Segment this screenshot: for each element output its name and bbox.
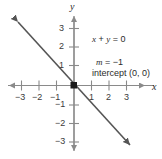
y-tick-label-neg1: −1 [55,99,65,109]
x-tick-label-pos2: 2 [106,92,111,102]
y-tick-label-pos2: 2 [59,41,64,51]
intercept-annotation: intercept (0, 0) [92,68,150,79]
x-axis [8,81,154,91]
graph-canvas [0,0,162,159]
x-tick-label-neg2: −2 [32,92,42,102]
x-tick-label-pos1: 1 [89,92,94,102]
slope-value: = −1 [103,57,124,67]
x-tick-label-pos3: 3 [124,92,129,102]
x-tick-label-neg3: −3 [15,92,25,102]
coordinate-plane-figure: x y −3 −2 −1 1 2 3 3 2 1 −1 −2 −3 x + y … [0,0,162,159]
equation-plus: + [96,34,106,44]
equation-annotation: x + y = 0 [92,34,126,45]
equation-rhs: = 0 [110,34,125,44]
y-tick-label-neg3: −3 [55,136,65,146]
y-tick-label-neg2: −2 [55,118,65,128]
slope-annotation: m = −1 [96,57,123,68]
y-axis-label: y [70,2,74,12]
y-tick-label-pos3: 3 [59,23,64,33]
origin-point-marker [71,82,78,89]
y-tick-label-pos1: 1 [59,60,64,70]
x-axis-label: x [152,82,156,92]
